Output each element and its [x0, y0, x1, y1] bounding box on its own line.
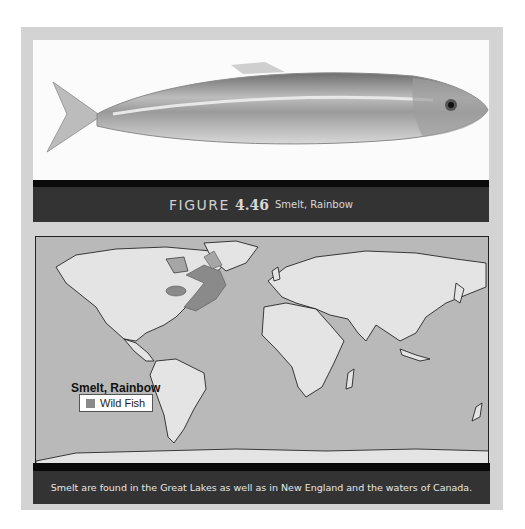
figure-caption: Smelt are found in the Great Lakes as we… — [51, 482, 472, 493]
fish-photo — [33, 40, 489, 180]
world-map-graphic — [36, 237, 489, 464]
figure-title-band: FIGURE 4.46 Smelt, Rainbow — [33, 180, 489, 222]
smelt-fish-illustration — [33, 40, 489, 180]
caption-band: Smelt are found in the Great Lakes as we… — [33, 463, 490, 504]
wild-fish-swatch — [86, 399, 95, 408]
figure-name: Smelt, Rainbow — [275, 199, 353, 210]
figure-label: FIGURE — [169, 197, 230, 213]
map-legend: Wild Fish — [79, 394, 153, 412]
figure-number: 4.46 — [235, 197, 269, 213]
legend-label-wild-fish: Wild Fish — [100, 397, 145, 409]
map-title: Smelt, Rainbow — [71, 381, 160, 395]
world-distribution-map: Smelt, Rainbow Wild Fish — [35, 236, 489, 464]
